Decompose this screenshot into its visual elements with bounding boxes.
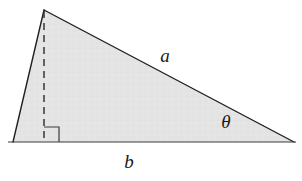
geometry-figure: a θ b [0,0,302,181]
triangle-shape [13,10,294,142]
label-hypotenuse-a: a [160,45,170,66]
triangle-diagram-svg: a θ b [0,0,302,181]
label-base-b: b [124,151,134,172]
label-angle-theta: θ [221,111,230,132]
